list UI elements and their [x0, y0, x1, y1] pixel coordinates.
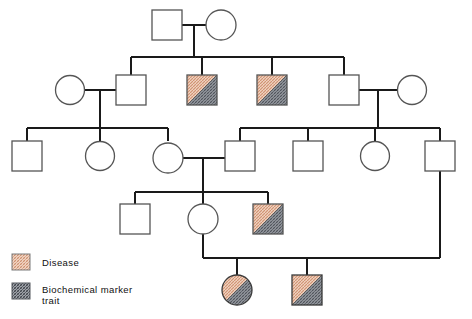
- legend-item-disease: Disease: [12, 254, 79, 270]
- individual-V-2-male-disease-and-marker[interactable]: [292, 275, 322, 305]
- legend-swatch-marker-icon: [12, 283, 30, 299]
- individual-II-4-male-unaffected[interactable]: [329, 75, 359, 105]
- individual-III-4-male-unaffected[interactable]: [225, 141, 255, 171]
- individual-II-3-male-disease-and-marker[interactable]: [257, 75, 287, 105]
- legend-item-biochemical-marker: Biochemical marker trait: [12, 283, 133, 306]
- legend-label-disease: Disease: [42, 257, 79, 268]
- legend-label-marker-line2: trait: [42, 295, 60, 306]
- individual-I-2-female-unaffected[interactable]: [206, 10, 236, 40]
- individual-II-0-female-unaffected[interactable]: [56, 76, 85, 105]
- individual-V-1-female-disease-and-marker[interactable]: [222, 275, 252, 305]
- legend: Disease Biochemical marker trait: [12, 254, 133, 306]
- individual-IV-3-male-disease-and-marker[interactable]: [253, 204, 283, 234]
- generation-V: [222, 275, 322, 305]
- individual-II-2-male-disease-and-marker[interactable]: [187, 75, 217, 105]
- individual-III-1-male-unaffected[interactable]: [12, 141, 42, 171]
- generation-IV: [120, 204, 283, 234]
- individual-II-1-male-unaffected[interactable]: [116, 75, 146, 105]
- individual-III-7-male-unaffected[interactable]: [425, 141, 455, 171]
- pedigree-chart: Disease Biochemical marker trait: [0, 0, 472, 319]
- pedigree-canvas: Disease Biochemical marker trait: [0, 0, 472, 319]
- individual-III-3-female-unaffected[interactable]: [153, 143, 183, 173]
- individual-I-1-male-unaffected[interactable]: [152, 10, 182, 40]
- individual-III-2-female-unaffected[interactable]: [86, 142, 115, 171]
- legend-label-marker-line1: Biochemical marker: [42, 284, 133, 295]
- generation-III: [12, 141, 455, 173]
- individual-III-5-male-unaffected[interactable]: [293, 141, 323, 171]
- individual-IV-2-female-unaffected[interactable]: [188, 204, 218, 234]
- individual-III-6-female-unaffected[interactable]: [361, 142, 390, 171]
- individual-IV-1-male-unaffected[interactable]: [120, 204, 150, 234]
- individual-II-5-female-unaffected[interactable]: [398, 76, 427, 105]
- legend-swatch-disease-icon: [12, 254, 30, 270]
